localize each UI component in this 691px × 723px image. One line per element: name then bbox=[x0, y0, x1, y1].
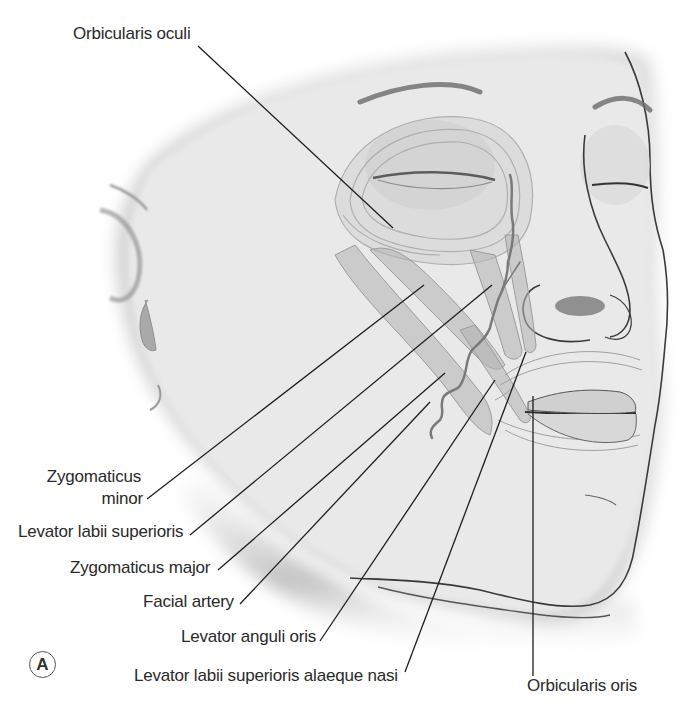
label-orbicularis-oculi: Orbicularis oculi bbox=[73, 24, 191, 44]
label-zygomaticus-minor-line1: Zygomaticus bbox=[47, 467, 141, 487]
label-levator-anguli-oris: Levator anguli oris bbox=[181, 627, 316, 647]
label-levator-labii-superioris: Levator labii superioris bbox=[18, 522, 183, 542]
label-zygomaticus-major: Zygomaticus major bbox=[70, 558, 210, 578]
label-orbicularis-oris: Orbicularis oris bbox=[527, 676, 637, 696]
label-facial-artery: Facial artery bbox=[143, 592, 234, 612]
panel-label-badge: A bbox=[29, 651, 56, 678]
label-levator-labii-superioris-alaeque-nasi: Levator labii superioris alaeque nasi bbox=[134, 666, 398, 686]
right-eye bbox=[580, 125, 650, 205]
face-anatomy-illustration bbox=[0, 0, 691, 723]
label-zygomaticus-minor-line2: minor bbox=[101, 489, 143, 509]
